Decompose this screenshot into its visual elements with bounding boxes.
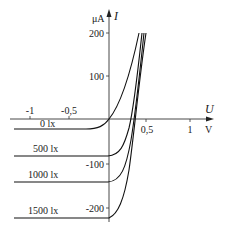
x-axis-label: U (205, 102, 215, 116)
curve-label-1000lx: 1000 lx (28, 169, 58, 180)
x-tick-label: 0,5 (141, 124, 154, 135)
y-axis-unit: μA (92, 13, 105, 24)
curve-label-0lx: 0 lx (40, 118, 55, 129)
curve-1500lx (14, 33, 146, 218)
x-axis-unit: V (205, 124, 213, 135)
curve-label-500lx: 500 lx (33, 143, 58, 154)
curves (14, 33, 146, 218)
y-axis-arrow-icon (107, 9, 112, 17)
curve-500lx (14, 33, 142, 156)
y-tick-label: 100 (89, 71, 104, 82)
iv-characteristic-chart: 200 100 -100 -200 -1 -0,5 0,5 1 μA I U V… (0, 0, 225, 229)
x-axis-arrow-icon (206, 117, 214, 122)
x-tick-label: -0,5 (61, 105, 77, 116)
y-tick-label: -100 (86, 159, 104, 170)
y-axis-label: I (113, 9, 119, 23)
y-tick-label: -200 (86, 203, 104, 214)
curve-label-1500lx: 1500 lx (28, 205, 58, 216)
y-tick-label: 200 (89, 28, 104, 39)
x-tick-label: 1 (188, 124, 193, 135)
x-tick-label: -1 (26, 105, 34, 116)
